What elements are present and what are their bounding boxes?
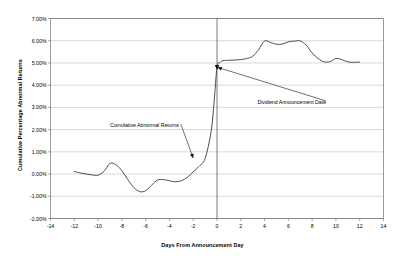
x-tick-label: 0: [205, 223, 229, 229]
x-tick-label: -8: [110, 223, 134, 229]
chart-container: Days From Announcement Day Cumulative Pe…: [0, 0, 405, 256]
y-tick-label: 3.00%: [17, 104, 47, 110]
x-tick-label: -10: [86, 223, 110, 229]
y-tick-label: 2.00%: [17, 127, 47, 133]
x-tick-label: -12: [62, 223, 86, 229]
x-tick-label: 12: [348, 223, 372, 229]
y-tick-label: -1.00%: [17, 193, 47, 199]
x-tick-label: -4: [157, 223, 181, 229]
x-tick-label: -14: [39, 223, 63, 229]
x-tick-label: 6: [276, 223, 300, 229]
x-axis-title: Days From Announcement Day: [0, 242, 405, 248]
y-tick-label: 0.00%: [17, 171, 47, 177]
y-tick-label: 6.00%: [17, 38, 47, 44]
y-tick-label: -2.00%: [17, 216, 47, 222]
x-tick-label: 10: [324, 223, 348, 229]
x-tick-label: -6: [134, 223, 158, 229]
annotation-arrows: [181, 67, 326, 158]
y-tick-label: 5.00%: [17, 60, 47, 66]
x-tick-label: 14: [372, 223, 396, 229]
annotation-cumulative-abnormal-returns: Cumulative Abnormal Returns: [110, 122, 179, 128]
y-tick-label: 7.00%: [17, 16, 47, 22]
x-tick-label: -2: [181, 223, 205, 229]
y-tick-label: 4.00%: [17, 82, 47, 88]
x-tick-label: 8: [300, 223, 324, 229]
annotation-dividend-announcement-date: Dividend Announcement Date: [257, 99, 326, 105]
x-tick-label: 4: [253, 223, 277, 229]
x-tick-label: 2: [229, 223, 253, 229]
tick-marks: [48, 19, 384, 222]
plot-area: [0, 0, 405, 256]
y-tick-label: 1.00%: [17, 149, 47, 155]
